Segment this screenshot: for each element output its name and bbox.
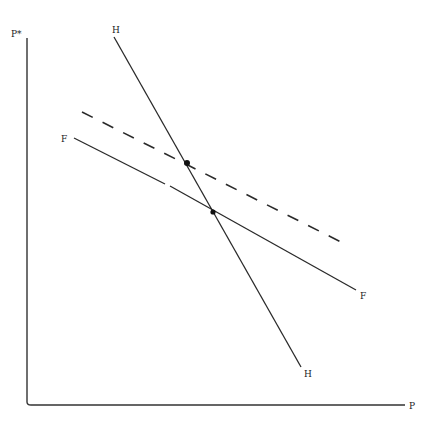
f-curve-label-end: F (360, 291, 366, 301)
f-curve-label-start: F (61, 134, 67, 144)
axes (27, 38, 405, 405)
h-curve-label-start: H (112, 25, 120, 35)
intersection-point-upper (184, 160, 190, 166)
h-curve-label-end: H (304, 369, 312, 379)
f-shifted-dashed-curve (82, 112, 349, 246)
f-curve-segment-right (170, 186, 356, 290)
diagram-canvas: P* P H H F F (0, 0, 437, 429)
x-axis-label: P (409, 401, 415, 411)
y-axis-label: P* (11, 29, 22, 39)
h-curve (114, 37, 301, 367)
f-curve-segment-left (74, 138, 165, 184)
intersection-point-lower (210, 209, 215, 214)
